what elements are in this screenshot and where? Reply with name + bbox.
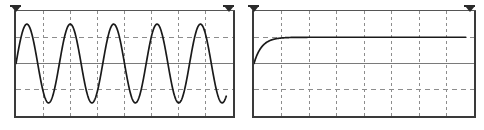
trigger-marker-left-icon[interactable] xyxy=(11,6,21,12)
oscilloscope-panel-row xyxy=(0,0,484,130)
step-plot-area xyxy=(254,11,474,116)
panel-border-bottom xyxy=(14,116,235,118)
trigger-marker-right-icon[interactable] xyxy=(465,6,475,12)
trigger-marker-right-icon[interactable] xyxy=(224,6,234,12)
panel-border-right xyxy=(233,10,235,118)
trigger-marker-left-icon[interactable] xyxy=(249,6,259,12)
panel-border-bottom xyxy=(252,116,476,118)
sine-waveform-panel[interactable] xyxy=(14,10,235,118)
sine-plot-area xyxy=(16,11,233,116)
sine-trace xyxy=(16,11,233,116)
step-response-panel[interactable] xyxy=(252,10,476,118)
step-trace xyxy=(254,11,474,116)
panel-border-right xyxy=(474,10,476,118)
